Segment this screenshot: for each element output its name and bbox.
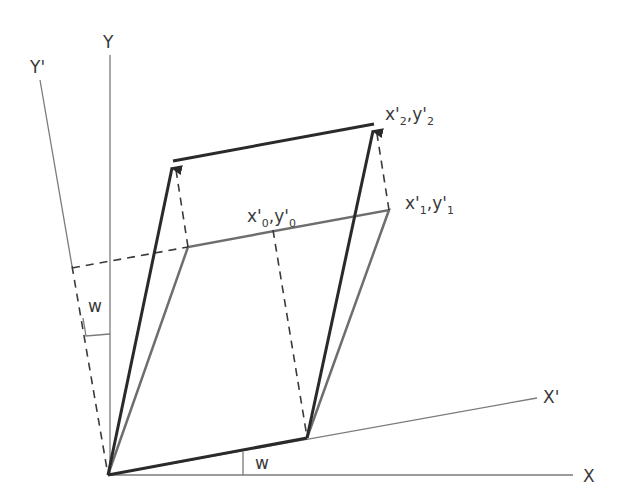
dashed-lift-right: [377, 134, 389, 210]
angle-label-left: w: [88, 296, 102, 316]
angle-label-bottom: w: [255, 453, 269, 473]
y-prime-axis-label: Y': [29, 57, 45, 77]
dashed-drop-middle: [273, 230, 307, 437]
dashed-projection-to-y-prime: [72, 247, 188, 268]
dark-edge-top: [173, 124, 374, 161]
y-prime-axis: [40, 80, 72, 266]
angle-marker-left: [83, 318, 110, 336]
dark-edge-bottom: [108, 438, 307, 475]
x-prime-axis-label: X': [543, 387, 559, 407]
point-label-p0: x'0,y'0: [247, 206, 296, 230]
y-axis-label: Y: [102, 32, 114, 52]
dashed-lift-left: [176, 170, 188, 247]
point-label-p2: x'2,y'2: [385, 104, 434, 128]
coordinate-transform-diagram: Y Y' X' X w w x'2,y'2 x'1,y'1 x'0,y'0: [0, 0, 623, 502]
point-label-p1: x'1,y'1: [405, 193, 454, 217]
x-axis-label: X: [583, 466, 595, 486]
